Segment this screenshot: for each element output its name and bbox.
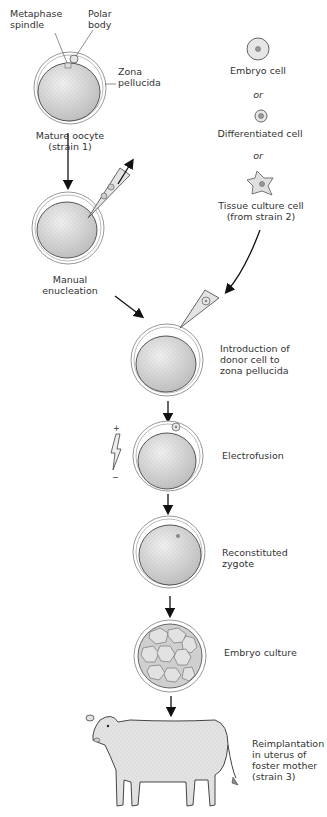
introduction-label: Introduction of donor cell to zona pellu…: [220, 343, 290, 376]
minus-sign: −: [112, 472, 119, 483]
label-line: donor cell to: [220, 354, 290, 365]
introduction-oocyte-icon: [131, 290, 219, 396]
arrow-curved: [228, 230, 260, 290]
embryo-culture-label: Embryo culture: [224, 647, 297, 658]
mature-oocyte-label: Mature oocyte (strain 1): [20, 130, 120, 152]
label-line: Metaphase: [10, 8, 62, 19]
mature-oocyte-icon: [34, 30, 116, 124]
label-line: zygote: [222, 558, 288, 569]
label-line: spindle: [10, 19, 62, 30]
reimplantation-label: Reimplantation in uterus of foster mothe…: [252, 738, 324, 782]
label-line: in uterus of: [252, 749, 324, 760]
embryo-cell-label: Embryo cell: [200, 65, 316, 76]
electrofusion-oocyte-icon: [133, 421, 203, 491]
label-line: Introduction of: [220, 343, 290, 354]
lightning-bolt-icon: [111, 434, 121, 470]
label-line: Polar: [88, 8, 112, 19]
metaphase-spindle-label: Metaphase spindle: [10, 8, 62, 30]
diagram-canvas: [0, 0, 327, 817]
label-line: (strain 1): [20, 141, 120, 152]
label-line: Mature oocyte: [20, 130, 120, 141]
plus-sign: +: [113, 423, 120, 434]
cow-icon: [86, 715, 238, 806]
tissue-culture-cell-label: Tissue culture cell (from strain 2): [200, 200, 322, 222]
label-line: pellucida: [118, 77, 161, 88]
zona-pellucida-label: Zona pellucida: [118, 66, 161, 88]
reconstituted-zygote-label: Reconstituted zygote: [222, 547, 288, 569]
embryo-culture-icon: [134, 620, 206, 692]
enucleation-oocyte-icon: [32, 192, 104, 264]
label-line: body: [88, 19, 112, 30]
label-line: Zona: [118, 66, 161, 77]
electrofusion-label: Electrofusion: [222, 450, 284, 461]
label-line: enucleation: [20, 285, 120, 296]
reconstituted-zygote-icon: [133, 516, 205, 588]
manual-enucleation-label: Manual enucleation: [20, 274, 120, 296]
label-line: Tissue culture cell: [200, 200, 322, 211]
label-line: Manual: [20, 274, 120, 285]
or-label: or: [200, 89, 316, 100]
differentiated-cell-label: Differentiated cell: [200, 128, 320, 139]
arrow-diagonal: [115, 296, 140, 315]
or-label: or: [200, 150, 316, 161]
label-line: (from strain 2): [200, 211, 322, 222]
differentiated-cell-icon: [255, 110, 267, 122]
polar-body-label: Polar body: [88, 8, 112, 30]
label-line: foster mother: [252, 760, 324, 771]
tissue-culture-cell-icon: [247, 171, 273, 195]
micropipette-icon: [88, 163, 131, 218]
label-line: zona pellucida: [220, 365, 290, 376]
label-line: Reconstituted: [222, 547, 288, 558]
label-line: Reimplantation: [252, 738, 324, 749]
label-line: (strain 3): [252, 771, 324, 782]
embryo-cell-icon: [247, 38, 269, 60]
